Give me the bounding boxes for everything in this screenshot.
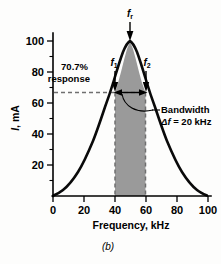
y-ticklabel-20: 20 xyxy=(32,159,44,171)
fr-marker: fr xyxy=(127,8,134,41)
x-ticklabel-40: 40 xyxy=(109,204,121,216)
bandwidth-value-rest: = 20 kHz xyxy=(171,116,212,127)
response-annotation-line1: 70.7% xyxy=(61,61,88,72)
resonance-response-figure: 100 80 60 40 20 0 20 40 60 80 100 Freque… xyxy=(0,0,221,264)
bandwidth-annotation-line2: Δf = 20 kHz xyxy=(160,116,212,127)
f1-label: f1 xyxy=(110,57,117,69)
f2-label-sub: 2 xyxy=(147,62,151,69)
x-ticklabel-100: 100 xyxy=(199,204,217,216)
x-axis-label: Frequency, kHz xyxy=(93,219,170,231)
y-ticklabel-80: 80 xyxy=(32,66,44,78)
f1-label-sub: 1 xyxy=(114,62,118,69)
fr-label: fr xyxy=(127,8,133,20)
y-axis-label-group: I, mA xyxy=(9,105,21,131)
fr-arrow-head xyxy=(127,31,134,41)
x-ticklabel-60: 60 xyxy=(140,204,152,216)
y-ticklabel-100: 100 xyxy=(26,35,44,47)
response-annotation-line2: response xyxy=(48,73,90,84)
x-ticklabel-20: 20 xyxy=(78,204,90,216)
figure-caption: (b) xyxy=(102,241,114,252)
y-axis-label-rest: , mA xyxy=(9,105,21,128)
y-ticklabel-60: 60 xyxy=(32,97,44,109)
f2-label: f2 xyxy=(143,57,150,69)
y-ticklabel-40: 40 xyxy=(32,128,44,140)
fr-label-sub: r xyxy=(130,13,133,20)
y-axis-label: I, mA xyxy=(9,105,21,131)
bandwidth-annotation-line1: Bandwidth xyxy=(161,104,210,115)
x-ticklabel-0: 0 xyxy=(50,204,56,216)
chart-svg: 100 80 60 40 20 0 20 40 60 80 100 Freque… xyxy=(0,0,221,264)
x-ticklabel-80: 80 xyxy=(171,204,183,216)
